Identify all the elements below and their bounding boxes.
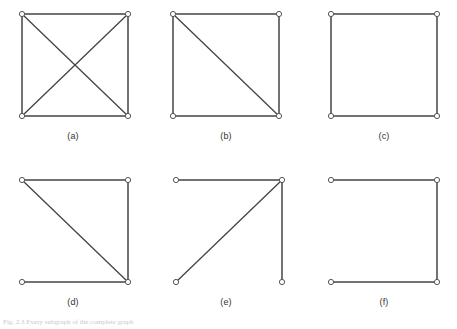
graph-node-f-top-left <box>328 177 333 182</box>
graph-node-b-bottom-left <box>170 113 175 118</box>
graph-figure: (a)(b)(c)(d)(e)(f)Fig. 2.3 Every subgrap… <box>0 0 457 329</box>
graph-node-b-bottom-right <box>276 113 281 118</box>
graph-edge-b-top-left-to-bottom-right <box>173 14 279 116</box>
graph-node-f-top-right <box>434 177 439 182</box>
graph-edge-e-bottom-left-to-top-right <box>176 180 282 282</box>
panel-caption-a: (a) <box>43 131 103 142</box>
graph-canvas-d <box>16 172 134 290</box>
panel-caption-e: (e) <box>196 297 256 308</box>
graph-node-d-top-left <box>19 177 24 182</box>
graph-canvas-a <box>16 6 134 124</box>
panel-caption-d: (d) <box>43 297 103 308</box>
graph-canvas-b <box>167 6 285 124</box>
graph-node-a-bottom-left <box>19 113 24 118</box>
graph-panel-d <box>16 172 134 290</box>
graph-node-c-top-right <box>434 11 439 16</box>
panel-caption-f: (f) <box>354 297 414 308</box>
graph-panel-c <box>325 6 443 124</box>
graph-node-b-top-left <box>170 11 175 16</box>
graph-edge-d-top-left-to-bottom-right <box>22 180 128 282</box>
graph-node-d-bottom-right <box>125 279 130 284</box>
graph-node-c-top-left <box>328 11 333 16</box>
graph-panel-a <box>16 6 134 124</box>
graph-node-c-bottom-left <box>328 113 333 118</box>
graph-panel-e <box>170 172 288 290</box>
graph-canvas-e <box>170 172 288 290</box>
figure-caption: Fig. 2.3 Every subgraph of the complete … <box>3 318 453 327</box>
panel-caption-c: (c) <box>354 131 414 142</box>
graph-panel-b <box>167 6 285 124</box>
graph-panel-f <box>325 172 443 290</box>
graph-node-a-top-right <box>125 11 130 16</box>
graph-node-d-top-right <box>125 177 130 182</box>
graph-node-a-top-left <box>19 11 24 16</box>
graph-node-c-bottom-right <box>434 113 439 118</box>
graph-node-e-top-right <box>279 177 284 182</box>
graph-node-e-bottom-right <box>279 279 284 284</box>
graph-node-b-top-right <box>276 11 281 16</box>
graph-canvas-f <box>325 172 443 290</box>
graph-node-e-top-left <box>173 177 178 182</box>
graph-node-f-bottom-right <box>434 279 439 284</box>
graph-canvas-c <box>325 6 443 124</box>
graph-node-a-bottom-right <box>125 113 130 118</box>
panel-caption-b: (b) <box>196 131 256 142</box>
graph-node-d-bottom-left <box>19 279 24 284</box>
graph-node-e-bottom-left <box>173 279 178 284</box>
graph-node-f-bottom-left <box>328 279 333 284</box>
